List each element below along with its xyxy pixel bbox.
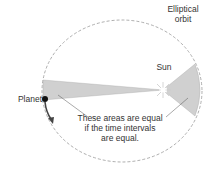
- motion-arrow-icon: [45, 102, 51, 119]
- note-line3: are equal.: [70, 133, 170, 143]
- orbit-label: Elliptical orbit: [160, 4, 206, 24]
- orbit-label-line1: Elliptical: [160, 4, 206, 14]
- equal-areas-note: These areas are equal if the time interv…: [70, 113, 170, 143]
- note-line2: if the time intervals: [70, 123, 170, 133]
- sun-label: Sun: [152, 62, 176, 72]
- planet-label: Planet: [2, 94, 42, 104]
- kepler-diagram: [0, 0, 210, 170]
- planet-icon: [42, 96, 48, 102]
- sun-icon: [155, 82, 171, 98]
- orbit-label-line2: orbit: [160, 14, 206, 24]
- note-line1: These areas are equal: [70, 113, 170, 123]
